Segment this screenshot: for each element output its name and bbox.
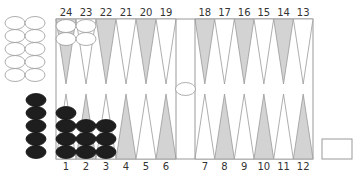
point-label: 9 — [241, 161, 247, 172]
point-label: 12 — [297, 161, 310, 172]
borne-off-white-checker[interactable] — [25, 56, 45, 69]
black-checker[interactable] — [76, 120, 96, 133]
point-label: 8 — [221, 161, 227, 172]
point-6[interactable] — [156, 94, 176, 159]
point-19[interactable] — [156, 19, 176, 84]
point-label: 23 — [80, 7, 93, 18]
point-20[interactable] — [136, 19, 156, 84]
point-12[interactable] — [293, 94, 313, 159]
top-point-labels: 242322212019181716151413 — [60, 7, 310, 18]
black-checker[interactable] — [96, 133, 116, 146]
point-label: 11 — [277, 161, 290, 172]
black-checker[interactable] — [96, 146, 116, 159]
bar[interactable] — [176, 83, 196, 96]
point-label: 18 — [198, 7, 211, 18]
black-checker[interactable] — [76, 146, 96, 159]
borne-off-white-checker[interactable] — [5, 56, 25, 69]
borne-off-white-checker[interactable] — [25, 43, 45, 56]
point-22[interactable] — [96, 19, 116, 84]
backgammon-board: 242322212019181716151413 123456789101112 — [0, 0, 360, 177]
borne-off-white-checker[interactable] — [5, 30, 25, 43]
point-label: 21 — [120, 7, 133, 18]
point-label: 1 — [63, 161, 69, 172]
black-checker[interactable] — [56, 107, 76, 120]
white-checker[interactable] — [76, 20, 96, 33]
point-18[interactable] — [195, 19, 215, 84]
black-checker[interactable] — [96, 120, 116, 133]
point-14[interactable] — [274, 19, 294, 84]
point-21[interactable] — [116, 19, 136, 84]
point-label: 4 — [123, 161, 129, 172]
point-label: 6 — [163, 161, 169, 172]
black-checker[interactable] — [76, 133, 96, 146]
borne-off-white-checker[interactable] — [25, 17, 45, 30]
point-label: 17 — [218, 7, 231, 18]
point-label: 13 — [297, 7, 310, 18]
black-checker[interactable] — [56, 120, 76, 133]
point-7[interactable] — [195, 94, 215, 159]
point-15[interactable] — [254, 19, 274, 84]
black-checker[interactable] — [56, 146, 76, 159]
point-label: 24 — [60, 7, 73, 18]
bar-white-checker[interactable] — [176, 83, 196, 96]
point-label: 16 — [238, 7, 251, 18]
point-label: 14 — [277, 7, 290, 18]
point-13[interactable] — [293, 19, 313, 84]
point-label: 20 — [140, 7, 153, 18]
borne-off-white-checker[interactable] — [25, 69, 45, 82]
bottom-point-labels: 123456789101112 — [63, 161, 310, 172]
point-label: 19 — [160, 7, 173, 18]
point-label: 7 — [202, 161, 208, 172]
white-checker[interactable] — [56, 20, 76, 33]
borne-off-white-checker[interactable] — [5, 17, 25, 30]
borne-off-black-checker[interactable] — [26, 120, 46, 133]
point-9[interactable] — [234, 94, 254, 159]
white-checker[interactable] — [76, 33, 96, 46]
borne-off-white-checker[interactable] — [5, 43, 25, 56]
point-8[interactable] — [215, 94, 235, 159]
point-label: 3 — [103, 161, 109, 172]
point-17[interactable] — [215, 19, 235, 84]
point-16[interactable] — [234, 19, 254, 84]
point-label: 15 — [257, 7, 270, 18]
borne-off-black-checker[interactable] — [26, 94, 46, 107]
borne-off-white-checker[interactable] — [5, 69, 25, 82]
borne-off-white-tray[interactable] — [5, 17, 45, 82]
borne-off-black-checker[interactable] — [26, 107, 46, 120]
point-5[interactable] — [136, 94, 156, 159]
borne-off-black-checker[interactable] — [26, 133, 46, 146]
point-4[interactable] — [116, 94, 136, 159]
black-checker[interactable] — [56, 133, 76, 146]
point-label: 5 — [143, 161, 149, 172]
doubling-cube[interactable] — [322, 139, 352, 159]
white-checker[interactable] — [56, 33, 76, 46]
point-label: 10 — [257, 161, 270, 172]
point-label: 2 — [83, 161, 89, 172]
point-11[interactable] — [274, 94, 294, 159]
point-10[interactable] — [254, 94, 274, 159]
borne-off-black-tray[interactable] — [26, 94, 46, 159]
borne-off-black-checker[interactable] — [26, 146, 46, 159]
point-label: 22 — [100, 7, 113, 18]
borne-off-white-checker[interactable] — [25, 30, 45, 43]
